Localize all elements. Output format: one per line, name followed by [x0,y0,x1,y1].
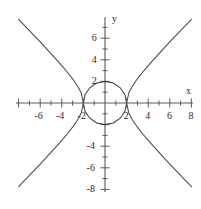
y-tick-label: 6 [92,33,97,43]
y-tick-label: 4 [92,55,97,65]
curve-hyperbola-upper-left [19,19,84,103]
y-axis-label: y [112,14,117,24]
curve-hyperbola-upper-right [127,19,192,103]
curve-hyperbola-lower-right [127,103,192,187]
x-tick-label: -2 [78,111,86,121]
x-tick-label: 6 [167,111,172,121]
curve-hyperbola-lower-left [19,103,84,187]
y-tick-label: -4 [87,141,95,151]
x-tick-label: 2 [124,111,129,121]
x-tick-label: 8 [189,111,194,121]
y-tick-label: 2 [92,76,97,86]
plot-canvas [0,0,201,209]
y-tick-label: -8 [87,184,95,194]
graph-figure: x y -6-4-22468 642-4-6-8 [0,0,201,209]
x-tick-label: -6 [34,111,42,121]
x-tick-label: -4 [56,111,64,121]
x-axis-label: x [186,86,191,96]
y-tick-label: -6 [87,163,95,173]
x-tick-label: 4 [145,111,150,121]
